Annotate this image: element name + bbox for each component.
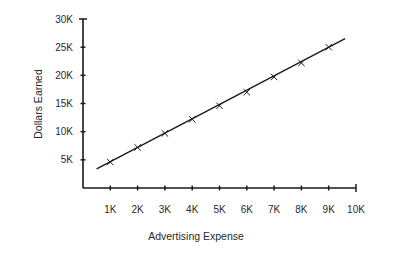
x-tick-label: 8K [295, 204, 308, 215]
data-series [97, 39, 345, 169]
y-tick-label: 15K [55, 98, 73, 109]
x-tick-label: 7K [268, 204, 281, 215]
x-marker-icon [326, 44, 332, 50]
y-tick-label: 10K [55, 126, 73, 137]
y-axis-title: Dollars Earned [32, 69, 44, 139]
x-tick-label: 1K [104, 204, 117, 215]
y-tick-label: 30K [55, 14, 73, 25]
x-marker-icon [134, 144, 140, 150]
x-marker-icon [162, 130, 168, 136]
x-tick-label: 5K [213, 204, 226, 215]
y-axis-title-group: Dollars Earned [32, 69, 44, 139]
y-tick-label: 20K [55, 70, 73, 81]
x-tick-label: 10K [347, 204, 365, 215]
x-tick-label: 4K [186, 204, 199, 215]
x-tick-label: 3K [159, 204, 172, 215]
x-tick-label: 2K [131, 204, 144, 215]
y-tick-label: 25K [55, 42, 73, 53]
x-tick-label: 6K [241, 204, 254, 215]
x-tick-label: 9K [323, 204, 336, 215]
y-tick-label: 5K [61, 154, 74, 165]
x-axis-title: Advertising Expense [148, 230, 244, 242]
line-chart: Dollars Earned Advertising Expense 5K10K… [0, 0, 393, 258]
